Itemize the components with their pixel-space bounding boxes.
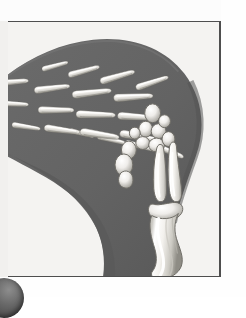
page-margin-left: [0, 21, 8, 277]
illustration-plate: [8, 21, 221, 277]
page-margin-right: [221, 0, 246, 297]
skeleton-illustration: [8, 22, 219, 276]
page-margin-bottom: [0, 277, 246, 297]
page-margin-top: [0, 0, 246, 21]
